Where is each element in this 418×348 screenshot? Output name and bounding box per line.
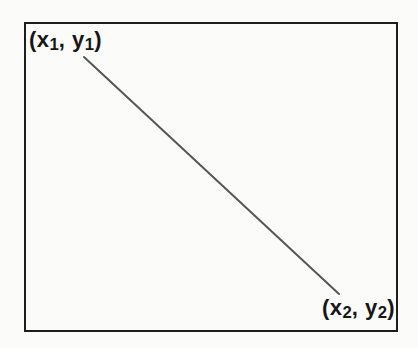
point2-mid: , y	[352, 295, 378, 320]
point2-label: (x2, y2)	[322, 296, 395, 320]
point2-open: (x	[322, 295, 343, 320]
point1-close: )	[94, 27, 102, 52]
point1-label: (x1, y1)	[29, 28, 102, 52]
point1-y-subscript: 1	[85, 35, 94, 54]
point2-close: )	[387, 295, 395, 320]
point2-y-subscript: 2	[378, 303, 387, 322]
point1-mid: , y	[59, 27, 85, 52]
point1-x-subscript: 1	[50, 35, 59, 54]
point2-x-subscript: 2	[343, 303, 352, 322]
figure-canvas: (x1, y1) (x2, y2)	[0, 0, 418, 348]
point1-open: (x	[29, 27, 50, 52]
bounding-box	[24, 22, 398, 332]
